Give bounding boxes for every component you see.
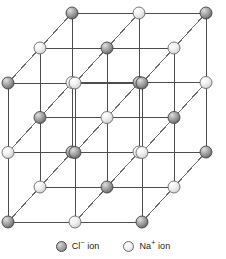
chloride-ion <box>200 146 212 158</box>
sodium-ion <box>101 112 113 124</box>
sodium-ion <box>69 216 81 228</box>
chloride-ion <box>136 216 148 228</box>
nacl-lattice-figure: Cl− ion Na+ ion <box>0 0 226 259</box>
chloride-ion <box>136 77 148 89</box>
lattice-bond <box>142 187 174 222</box>
chloride-sphere-icon <box>56 241 67 252</box>
sodium-ion <box>200 77 212 89</box>
chloride-ion <box>34 112 46 124</box>
lattice-bond <box>142 48 174 83</box>
sodium-ion <box>136 147 148 159</box>
sodium-ion <box>34 181 46 193</box>
sodium-ion <box>133 7 145 19</box>
lattice-bond <box>75 187 107 222</box>
lattice-bond <box>174 13 206 48</box>
legend-label-chloride: Cl− ion <box>72 242 100 251</box>
lattice-bond <box>40 152 72 187</box>
chloride-ion <box>2 77 14 89</box>
chloride-ion <box>2 216 14 228</box>
lattice-bond <box>75 118 107 153</box>
legend-item-chloride: Cl− ion <box>56 241 100 252</box>
lattice-bond <box>40 13 72 48</box>
lattice-bond <box>174 83 206 118</box>
sodium-ion <box>2 147 14 159</box>
lattice-bond <box>107 13 139 48</box>
lattice-diagram <box>0 0 226 259</box>
chloride-ion <box>101 181 113 193</box>
sodium-ion <box>168 181 180 193</box>
sodium-ion <box>168 42 180 54</box>
lattice-bond <box>8 118 40 153</box>
chloride-ion <box>69 147 81 159</box>
legend: Cl− ion Na+ ion <box>0 234 226 259</box>
chloride-ion <box>66 7 78 19</box>
lattice-bond <box>75 48 107 83</box>
lattice-bond <box>107 152 139 187</box>
sodium-ion <box>69 77 81 89</box>
chloride-ion <box>101 42 113 54</box>
chloride-ion <box>168 112 180 124</box>
lattice-bond <box>174 152 206 187</box>
lattice-bond <box>8 187 40 222</box>
lattice-bond <box>8 48 40 83</box>
chloride-ion <box>200 7 212 19</box>
sodium-sphere-icon <box>123 241 134 252</box>
lattice-bond <box>142 118 174 153</box>
lattice-bond <box>40 83 72 118</box>
legend-item-sodium: Na+ ion <box>123 241 170 252</box>
sodium-ion <box>34 42 46 54</box>
lattice-bond <box>107 83 139 118</box>
legend-label-sodium: Na+ ion <box>139 242 170 251</box>
